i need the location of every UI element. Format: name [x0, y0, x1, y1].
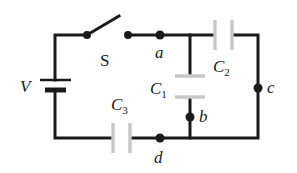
node-b	[186, 113, 195, 122]
circuit-diagram: V S a C2 C1 b c C3 d	[0, 0, 297, 173]
node-c	[254, 84, 263, 93]
node-a	[156, 31, 165, 40]
c1-label: C1	[150, 79, 167, 100]
node-c-label: c	[267, 78, 275, 97]
capacitor-c1-icon	[175, 76, 205, 97]
switch-label: S	[100, 51, 109, 70]
node-d	[156, 134, 165, 143]
node-b-label: b	[199, 107, 208, 126]
c2-label: C2	[213, 57, 230, 78]
capacitor-c3-icon	[113, 123, 130, 153]
capacitor-c2-icon	[215, 20, 232, 50]
node-d-label: d	[154, 148, 163, 167]
switch-icon	[83, 16, 132, 39]
battery-label: V	[20, 77, 33, 96]
c3-label: C3	[111, 95, 128, 116]
node-a-label: a	[155, 43, 164, 62]
